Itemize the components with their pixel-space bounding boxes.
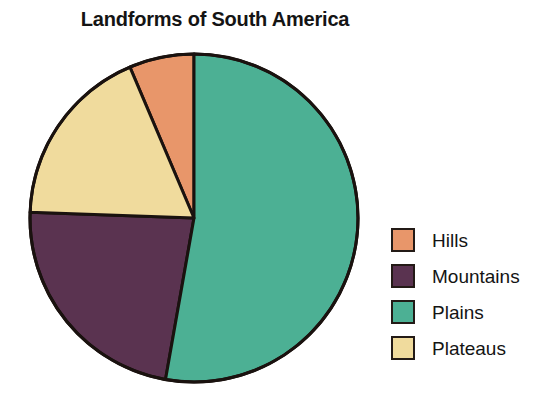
legend-label-hills: Hills: [432, 231, 468, 250]
pie-chart-figure: Landforms of South America Hills Mountai…: [0, 0, 554, 413]
legend-label-mountains: Mountains: [432, 267, 520, 286]
plateaus-color-swatch: [391, 336, 415, 360]
legend-item-hills[interactable]: Hills: [391, 222, 551, 258]
legend-label-plains: Plains: [432, 303, 484, 322]
legend-label-plateaus: Plateaus: [432, 339, 506, 358]
legend-item-plateaus[interactable]: Plateaus: [391, 330, 551, 366]
chart-title: Landforms of South America: [0, 8, 430, 31]
chart-legend: Hills Mountains Plains Plateaus: [391, 222, 551, 366]
hills-color-swatch: [391, 228, 415, 252]
pie-slices-group: [30, 54, 358, 382]
mountains-color-swatch: [391, 264, 415, 288]
legend-item-plains[interactable]: Plains: [391, 294, 551, 330]
legend-item-mountains[interactable]: Mountains: [391, 258, 551, 294]
plains-color-swatch: [391, 300, 415, 324]
pie-plot-area: [22, 40, 372, 405]
pie-svg: [22, 40, 372, 405]
